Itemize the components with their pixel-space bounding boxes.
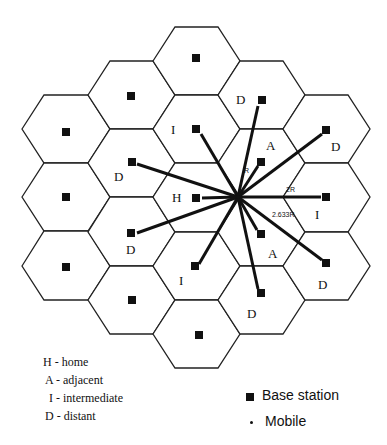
cell-label: D	[331, 139, 340, 154]
base-station-icon	[62, 263, 70, 271]
base-station-icon	[322, 193, 330, 201]
base-station-icon	[322, 126, 330, 134]
distance-label-r: R	[244, 167, 249, 174]
base-station-icon	[127, 229, 135, 237]
cell-label: A	[266, 138, 276, 153]
distance-label-2633r: 2.633R	[272, 211, 295, 218]
mobile-icon	[250, 421, 253, 424]
base-station-icon	[257, 230, 265, 238]
base-station-icon	[127, 92, 135, 100]
cell-label: D	[236, 92, 245, 107]
legend-base-station: Base station	[246, 382, 339, 408]
base-station-icon	[192, 194, 200, 202]
base-station-icon	[246, 393, 254, 401]
base-station-icon	[62, 193, 70, 201]
distance-label-2r: 2R	[286, 186, 295, 193]
cell-label: D	[114, 169, 123, 184]
base-station-icon	[191, 262, 199, 270]
cell-type-legend: H - home A - adjacent I - intermediate D…	[43, 353, 123, 425]
base-station-icon	[128, 296, 136, 304]
base-station-icon	[257, 289, 265, 297]
base-station-icon	[192, 54, 200, 62]
legend-adjacent: A - adjacent	[43, 371, 123, 389]
legend-home: H - home	[43, 353, 123, 371]
cell-label: A	[268, 246, 278, 261]
cell-label: D	[126, 242, 135, 257]
base-station-icon	[258, 96, 266, 104]
legend-intermediate: I - intermediate	[43, 389, 123, 407]
base-station-icon	[322, 259, 330, 267]
cell-label: I	[179, 273, 183, 288]
cell-label: I	[171, 122, 175, 137]
legend-mobile: Mobile	[246, 408, 339, 434]
legend-mobile-label: Mobile	[265, 413, 306, 429]
base-station-icon	[195, 331, 203, 339]
mobile-icon	[236, 195, 240, 199]
base-station-icon	[192, 125, 200, 133]
base-station-icon	[128, 158, 136, 166]
legend-distant: D - distant	[43, 407, 123, 425]
cell-label: D	[247, 306, 256, 321]
base-station-icon	[62, 128, 70, 136]
base-station-icon	[257, 158, 265, 166]
cell-label: D	[318, 277, 327, 292]
symbol-legend: Base station Mobile	[246, 382, 339, 434]
legend-base-station-label: Base station	[262, 387, 339, 403]
cell-label: H	[172, 190, 181, 205]
cell-label: I	[315, 207, 319, 222]
